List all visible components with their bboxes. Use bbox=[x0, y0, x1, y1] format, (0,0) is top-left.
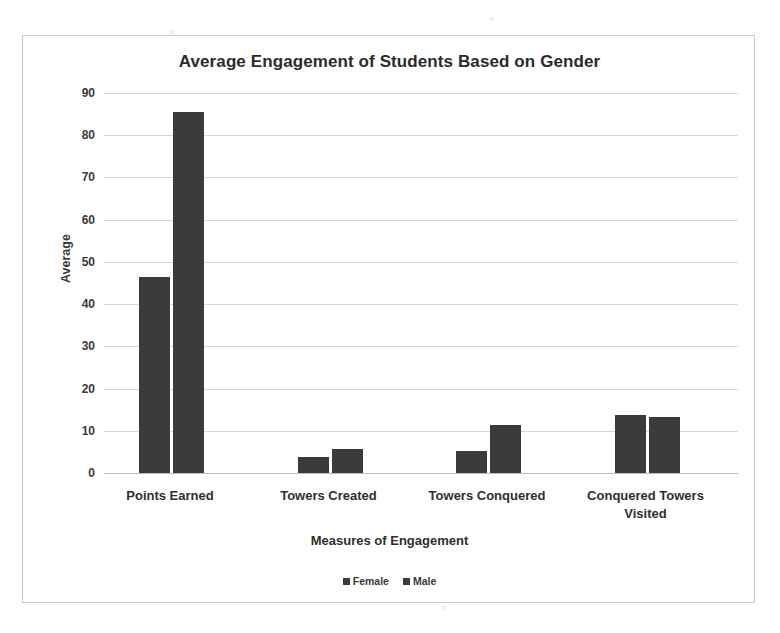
bar-group: Conquered Towers Visited bbox=[580, 93, 739, 473]
x-axis-title: Measures of Engagement bbox=[23, 533, 756, 548]
legend-item-female[interactable]: Female bbox=[343, 575, 389, 587]
bar-female[interactable] bbox=[615, 415, 646, 473]
y-tick-label: 0 bbox=[88, 466, 95, 480]
x-category-label: Conquered Towers Visited bbox=[567, 487, 725, 522]
gridline-0: 0 bbox=[104, 473, 738, 474]
x-category-label: Points Earned bbox=[91, 487, 249, 505]
bar-female[interactable] bbox=[298, 457, 329, 473]
y-tick-label: 80 bbox=[82, 128, 95, 142]
legend-item-male[interactable]: Male bbox=[403, 575, 436, 587]
y-axis-title: Average bbox=[59, 234, 73, 283]
bar-female[interactable] bbox=[456, 451, 487, 473]
bar-group: Points Earned bbox=[104, 93, 263, 473]
y-tick-label: 90 bbox=[82, 86, 95, 100]
bar-group: Towers Conquered bbox=[421, 93, 580, 473]
y-tick-label: 60 bbox=[82, 213, 95, 227]
legend-label: Male bbox=[413, 575, 436, 587]
legend-swatch-icon bbox=[343, 578, 350, 585]
bar-female[interactable] bbox=[139, 277, 170, 473]
bar-group: Towers Created bbox=[263, 93, 422, 473]
y-tick-label: 20 bbox=[82, 382, 95, 396]
y-tick-label: 40 bbox=[82, 297, 95, 311]
x-category-label: Towers Conquered bbox=[408, 487, 566, 505]
bar-male[interactable] bbox=[649, 417, 680, 473]
bar-male[interactable] bbox=[332, 449, 363, 473]
y-tick-label: 30 bbox=[82, 339, 95, 353]
chart-legend: FemaleMale bbox=[23, 575, 756, 587]
bar-male[interactable] bbox=[490, 425, 521, 473]
plot-area: 9080706050403020100 Points EarnedTowers … bbox=[104, 93, 738, 473]
y-tick-label: 50 bbox=[82, 255, 95, 269]
y-tick-label: 10 bbox=[82, 424, 95, 438]
y-tick-label: 70 bbox=[82, 170, 95, 184]
chart-frame: Average Engagement of Students Based on … bbox=[22, 35, 755, 603]
legend-swatch-icon bbox=[403, 578, 410, 585]
bar-male[interactable] bbox=[173, 112, 204, 473]
chart-title: Average Engagement of Students Based on … bbox=[23, 52, 756, 72]
legend-label: Female bbox=[353, 575, 389, 587]
x-category-label: Towers Created bbox=[250, 487, 408, 505]
